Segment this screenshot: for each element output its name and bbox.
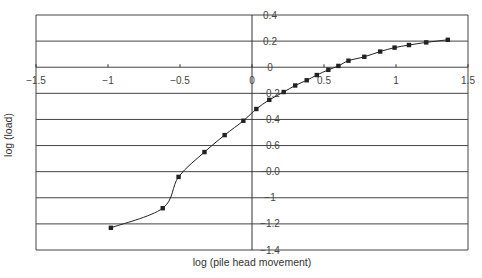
square-marker-icon (254, 107, 258, 111)
square-marker-icon (222, 133, 226, 137)
square-marker-icon (346, 58, 350, 62)
y-tick-label: 0 (267, 62, 273, 73)
square-marker-icon (202, 150, 206, 154)
y-axis-title: log (load) (2, 113, 14, 157)
square-marker-icon (336, 64, 340, 68)
x-tick-label: 1 (393, 75, 399, 86)
series-line (111, 40, 448, 228)
y-tick-label: −1.2 (260, 218, 280, 229)
square-marker-icon (407, 43, 411, 47)
square-marker-icon (424, 40, 428, 44)
y-tick-label: −1.4 (260, 245, 280, 256)
square-marker-icon (446, 38, 450, 42)
y-tick-label: −0.4 (260, 114, 280, 125)
y-tick-label: −0.6 (260, 140, 280, 151)
square-marker-icon (315, 73, 319, 77)
x-axis-title: log (pile head movement) (193, 256, 311, 268)
square-marker-icon (281, 90, 285, 94)
square-marker-icon (326, 68, 330, 72)
y-tick-label: −0.2 (260, 88, 280, 99)
square-marker-icon (161, 206, 165, 210)
y-axis: 0.40.20−0.2−0.4−0.6−0.0−1−1.2−1.4 (252, 10, 280, 256)
square-marker-icon (392, 45, 396, 49)
y-tick-label: −1 (264, 192, 276, 203)
square-marker-icon (362, 55, 366, 59)
square-marker-icon (241, 119, 245, 123)
x-tick-label: −1 (102, 75, 114, 86)
x-tick-label: −1.5 (26, 75, 46, 86)
data-series (109, 38, 450, 230)
square-marker-icon (267, 98, 271, 102)
y-tick-label: 0.4 (263, 10, 277, 21)
square-marker-icon (378, 49, 382, 53)
y-tick-label: 0.2 (263, 36, 277, 47)
x-tick-label: 1.5 (461, 75, 475, 86)
x-tick-label: 0.5 (317, 75, 331, 86)
chart: −1.5−1−0.500.511.5 0.40.20−0.2−0.4−0.6−0… (0, 0, 482, 278)
square-marker-icon (176, 175, 180, 179)
square-marker-icon (109, 226, 113, 230)
square-marker-icon (305, 78, 309, 82)
square-marker-icon (293, 83, 297, 87)
y-tick-label: −0.0 (260, 166, 280, 177)
x-tick-label: −0.5 (170, 75, 190, 86)
